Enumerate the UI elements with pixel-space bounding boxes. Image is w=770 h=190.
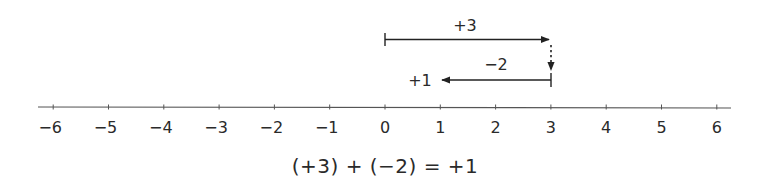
tick-label-group: −6−5−4−3−2−10123456 <box>38 118 721 137</box>
number-line-diagram: −6−5−4−3−2−10123456 +3 −2 +1 (+3) + (−2)… <box>0 0 770 190</box>
tick-label: 2 <box>491 118 501 137</box>
tick-label: −2 <box>260 118 284 137</box>
tick-label: 3 <box>546 118 556 137</box>
equation: (+3) + (−2) = +1 <box>0 154 770 178</box>
tick-label: −6 <box>38 118 62 137</box>
tick-label: 5 <box>656 118 666 137</box>
tick-label: −5 <box>94 118 118 137</box>
tick-label: 0 <box>380 118 390 137</box>
second-addend-label: −2 <box>484 55 508 74</box>
tick-label: −1 <box>315 118 339 137</box>
tick-label: −4 <box>149 118 173 137</box>
tick-label: −3 <box>204 118 228 137</box>
first-addend-arrow: +3 <box>385 16 549 46</box>
tick-label: 6 <box>712 118 722 137</box>
result-label: +1 <box>408 71 432 90</box>
second-addend-arrow: −2 <box>442 55 551 87</box>
tick-label: 4 <box>601 118 611 137</box>
tick-label: 1 <box>435 118 445 137</box>
first-addend-label: +3 <box>453 16 477 35</box>
